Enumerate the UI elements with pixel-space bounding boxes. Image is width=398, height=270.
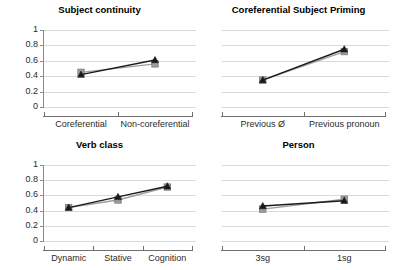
series-line-observed — [263, 199, 345, 209]
multi-panel-figure: Subject continuity Coreferential Subject… — [0, 0, 398, 270]
series-line-predicted — [263, 201, 345, 206]
series-layer — [0, 0, 398, 270]
